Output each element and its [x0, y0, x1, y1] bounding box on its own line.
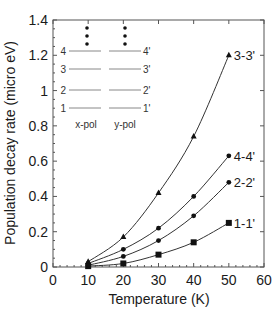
- series-line: [88, 156, 229, 264]
- level-label-right: 3': [143, 64, 151, 75]
- y-tick-label: 1.2: [29, 47, 49, 63]
- ellipsis-dot: [123, 26, 127, 30]
- y-tick-label: 0.2: [29, 224, 49, 240]
- y-tick-label: 0: [40, 259, 48, 275]
- square-marker: [120, 260, 126, 266]
- circle-marker: [226, 180, 231, 185]
- y-tick-label: 1.4: [29, 12, 49, 28]
- circle-marker: [156, 226, 161, 231]
- x-tick-label: 40: [186, 272, 202, 288]
- x-tick-label: 50: [221, 272, 237, 288]
- circle-marker: [191, 213, 196, 218]
- x-axis-title: Temperature (K): [108, 291, 209, 307]
- circle-marker: [121, 247, 126, 252]
- x-pol-caption: x-pol: [75, 119, 97, 130]
- series-line: [88, 55, 229, 261]
- triangle-marker: [191, 133, 197, 139]
- series-label: 3-3': [234, 48, 255, 63]
- ellipsis-dot: [85, 42, 89, 46]
- ellipsis-dot: [123, 42, 127, 46]
- level-label-right: 2': [143, 85, 151, 96]
- circle-marker: [121, 254, 126, 259]
- square-marker: [156, 252, 162, 258]
- y-pol-caption: y-pol: [114, 119, 136, 130]
- level-label-left: 3: [60, 64, 66, 75]
- series-4-4p: 4-4': [86, 149, 255, 266]
- circle-marker: [156, 238, 161, 243]
- y-tick-label: 0.6: [29, 153, 49, 169]
- level-label-left: 2: [60, 85, 66, 96]
- level-label-left: 1: [60, 103, 66, 114]
- x-tick-label: 20: [116, 272, 132, 288]
- x-tick-label: 30: [151, 272, 167, 288]
- series-label: 2-2': [234, 175, 255, 190]
- chart-figure: 0102030405060 00.20.40.60.811.21.4 3-3'4…: [0, 0, 277, 316]
- y-tick-label: 1: [40, 83, 48, 99]
- ellipsis-dot: [123, 34, 127, 38]
- square-marker: [85, 263, 91, 269]
- level-label-left: 4: [60, 46, 66, 57]
- ellipsis-dot: [85, 26, 89, 30]
- series-layer: 3-3'4-4'2-2'1-1': [85, 48, 255, 269]
- circle-marker: [191, 194, 196, 199]
- x-tick-label: 60: [256, 272, 272, 288]
- y-tick-label: 0.8: [29, 118, 49, 134]
- level-label-right: 1': [143, 103, 151, 114]
- series-label: 4-4': [234, 149, 255, 164]
- triangle-marker: [226, 52, 232, 58]
- x-tick-label: 10: [80, 272, 96, 288]
- square-marker: [191, 239, 197, 245]
- x-tick-label: 0: [49, 272, 57, 288]
- circle-marker: [226, 153, 231, 158]
- ellipsis-dot: [85, 34, 89, 38]
- series-label: 1-1': [234, 216, 255, 231]
- square-marker: [226, 220, 232, 226]
- inset-legend: 44'33'22'11'x-poly-pol: [60, 26, 150, 130]
- y-axis-title: Population decay rate (micro eV): [2, 41, 18, 245]
- level-label-right: 4': [143, 46, 151, 57]
- series-1-1p: 1-1': [85, 216, 255, 269]
- y-tick-label: 0.4: [29, 188, 49, 204]
